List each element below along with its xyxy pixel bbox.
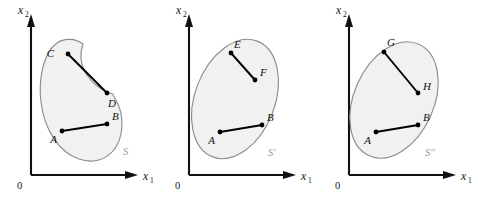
origin-label: 0 — [175, 180, 180, 191]
point-D-dot — [105, 91, 110, 96]
point-B-dot — [416, 123, 421, 128]
origin-label: 0 — [17, 180, 22, 191]
x-axis-arrow-icon — [443, 171, 456, 179]
y-axis-label-group: x 2 — [335, 4, 347, 19]
panel-convex-set-prime: E F A B S' 0 x 2 x 1 — [158, 0, 318, 200]
x-axis-subscript: 1 — [150, 176, 154, 185]
point-label-D: D — [107, 97, 116, 109]
point-label-E: E — [233, 38, 241, 50]
point-label-B: B — [423, 111, 430, 123]
x-axis-label-group: x 1 — [460, 170, 472, 185]
point-B-dot — [260, 123, 265, 128]
point-label-F: F — [259, 66, 267, 78]
x-axis-label-group: x 1 — [300, 170, 312, 185]
x-axis-arrow-icon — [283, 171, 296, 179]
y-axis-subscript: 2 — [343, 10, 347, 19]
y-axis-label: x — [17, 4, 24, 16]
panel-non-convex-set: C D A B S 0 x 2 x 1 — [0, 0, 160, 200]
point-label-C: C — [47, 47, 55, 59]
point-H-dot — [416, 91, 421, 96]
point-A-dot — [218, 130, 223, 135]
y-axis-label: x — [335, 4, 342, 16]
set-region-shape — [333, 28, 456, 172]
set-label-S-double-prime: S'' — [425, 147, 435, 158]
point-label-H: H — [422, 80, 432, 92]
set-label-S-prime: S' — [268, 147, 276, 158]
y-axis-label-group: x 2 — [175, 4, 187, 19]
y-axis-subscript: 2 — [25, 10, 29, 19]
x-axis-label: x — [300, 170, 307, 182]
x-axis-arrow-icon — [125, 171, 138, 179]
point-F-dot — [253, 78, 258, 83]
x-axis-label-group: x 1 — [142, 170, 154, 185]
x-axis-label: x — [460, 170, 467, 182]
point-label-A: A — [207, 134, 215, 146]
y-axis-label-group: x 2 — [17, 4, 29, 19]
point-E-dot — [229, 51, 234, 56]
point-label-G: G — [387, 36, 395, 48]
x-axis-subscript: 1 — [308, 176, 312, 185]
x-axis-subscript: 1 — [468, 176, 472, 185]
point-G-dot — [382, 50, 387, 55]
point-label-B: B — [112, 110, 119, 122]
point-A-dot — [374, 130, 379, 135]
y-axis-subscript: 2 — [183, 10, 187, 19]
origin-label: 0 — [335, 180, 340, 191]
x-axis-label: x — [142, 170, 149, 182]
point-label-B: B — [267, 111, 274, 123]
panel-convex-set-double-prime: G H A B S'' 0 x 2 x 1 — [318, 0, 478, 200]
point-C-dot — [66, 52, 71, 57]
point-B-dot — [105, 122, 110, 127]
set-label-S: S — [123, 146, 129, 157]
convexity-figure: C D A B S 0 x 2 x 1 — [0, 0, 478, 200]
point-A-dot — [60, 129, 65, 134]
y-axis-label: x — [175, 4, 182, 16]
point-label-A: A — [49, 133, 57, 145]
point-label-A: A — [363, 134, 371, 146]
